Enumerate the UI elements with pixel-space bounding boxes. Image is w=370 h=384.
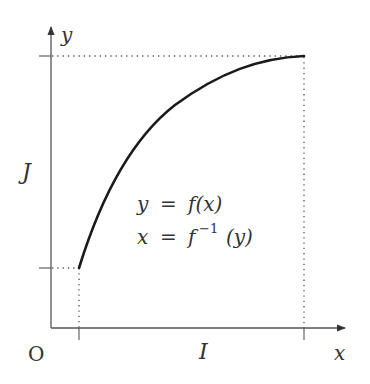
y-axis-label: y xyxy=(60,23,73,47)
svg-text:f(x): f(x) xyxy=(186,192,222,216)
range-label-J: J xyxy=(18,159,32,184)
svg-text:y: y xyxy=(136,192,149,216)
svg-text:x: x xyxy=(137,225,148,249)
forward-equation: y = f(x) xyxy=(136,192,222,216)
x-axis-label: x xyxy=(334,341,345,365)
svg-text:=: = xyxy=(160,192,177,216)
domain-label-I: I xyxy=(198,339,209,364)
svg-text:(y): (y) xyxy=(226,225,253,249)
svg-text:=: = xyxy=(160,225,177,249)
origin-label: O xyxy=(28,342,44,366)
svg-text:−1: −1 xyxy=(199,221,218,236)
inverse-function-diagram: y x O J I y = f(x) x = f −1 (y) xyxy=(0,0,370,384)
svg-text:f: f xyxy=(186,225,199,249)
inverse-equation: x = f −1 (y) xyxy=(137,221,253,249)
